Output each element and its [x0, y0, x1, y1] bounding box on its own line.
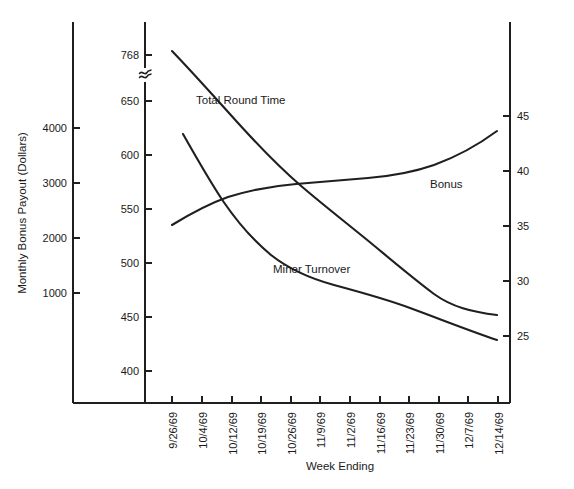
left-outer-tick-label-4000: 4000 — [43, 122, 67, 134]
left-outer-tick-label-1000: 1000 — [43, 287, 67, 299]
right-tick-label-30: 30 — [517, 275, 529, 287]
series-label-total-round-time: Total Round Time — [196, 94, 286, 106]
left-outer-tick-label-2000: 2000 — [43, 232, 67, 244]
x-tick-label-7: 11/16/69 — [375, 412, 387, 454]
right-tick-label-40: 40 — [517, 165, 529, 177]
left-inner-axis: 768 650 600 550 500 450 400 — [121, 22, 152, 403]
chart-canvas: 4000 3000 2000 1000 Monthly Bonus Payout… — [0, 0, 574, 489]
x-tick-label-6: 11/2/69 — [345, 412, 357, 448]
right-axis: 45 40 35 30 25 — [503, 22, 529, 403]
x-tick-label-11: 12/14/69 — [493, 412, 505, 455]
x-tick-label-8: 11/23/69 — [404, 412, 416, 454]
x-tick-label-10: 12/7/69 — [463, 412, 475, 449]
left-inner-tick-label-650: 650 — [121, 95, 139, 107]
left-axis-title: Monthly Bonus Payout (Dollars) — [16, 132, 28, 294]
right-tick-label-25: 25 — [517, 330, 529, 342]
left-inner-tick-label-600: 600 — [121, 149, 139, 161]
left-inner-tick-label-400: 400 — [121, 365, 139, 377]
x-tick-label-1: 10/4/69 — [197, 412, 209, 449]
left-inner-tick-label-500: 500 — [121, 257, 139, 269]
series-label-bonus: Bonus — [430, 178, 463, 190]
x-axis-title: Week Ending — [306, 460, 374, 472]
left-inner-tick-label-450: 450 — [121, 311, 139, 323]
x-tick-label-4: 10/26/69 — [286, 412, 298, 455]
right-tick-label-35: 35 — [517, 220, 529, 232]
x-tick-label-0: 9/26/69 — [167, 412, 179, 449]
x-tick-label-9: 11/30/69 — [434, 412, 446, 454]
x-tick-label-3: 10/19/69 — [256, 412, 268, 455]
left-outer-tick-label-3000: 3000 — [43, 177, 67, 189]
x-axis-ticks: 9/26/69 10/4/69 10/12/69 10/19/69 10/26/… — [167, 396, 505, 472]
x-tick-label-2: 10/12/69 — [227, 412, 239, 455]
series-label-miner-turnover: Miner Turnover — [273, 263, 351, 275]
left-outer-axis: 4000 3000 2000 1000 Monthly Bonus Payout… — [16, 22, 510, 403]
x-tick-label-5: 11/9/69 — [315, 412, 327, 448]
chart-figure: 4000 3000 2000 1000 Monthly Bonus Payout… — [0, 0, 574, 489]
left-inner-tick-label-768: 768 — [121, 49, 139, 61]
axis-break-icon — [140, 68, 152, 82]
right-tick-label-45: 45 — [517, 110, 529, 122]
left-inner-tick-label-550: 550 — [121, 203, 139, 215]
series-line-miner-turnover — [183, 134, 497, 340]
